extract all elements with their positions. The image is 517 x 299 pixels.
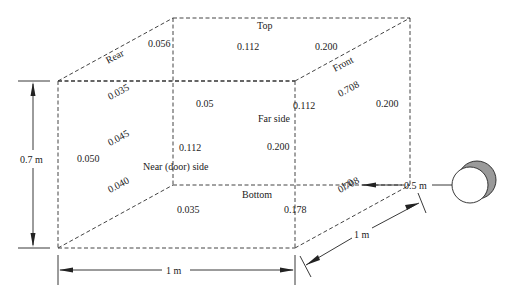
value-far-top: 0.112 — [293, 100, 315, 111]
sphere-source-icon — [452, 161, 496, 203]
value-far-mid: 0.200 — [267, 141, 290, 152]
face-label-top: Top — [257, 20, 272, 31]
value-top-rear: 0.056 — [148, 38, 171, 49]
value-near-inner: 0.112 — [179, 142, 201, 153]
box-diagram: 0.7 m 1 m 1 m 0.5 m Top Rear Front Far s… — [0, 0, 517, 299]
height-dimension: 0.7 m — [18, 81, 50, 248]
face-label-bottom: Bottom — [242, 189, 272, 200]
value-rear-upper: 0.035 — [106, 81, 131, 101]
value-rear-mid: 0.045 — [106, 127, 131, 147]
value-near-left: 0.050 — [77, 153, 100, 164]
value-near-top: 0.05 — [196, 98, 214, 109]
depth-label: 1 m — [354, 229, 370, 240]
value-top-center: 0.112 — [237, 41, 259, 52]
height-label: 0.7 m — [20, 154, 43, 165]
value-front-upper: 0.708 — [336, 78, 361, 98]
width-label: 1 m — [166, 265, 182, 276]
face-label-far-side: Far side — [258, 113, 291, 124]
width-dimension: 1 m — [58, 255, 295, 285]
value-bottom-edge: 0.178 — [284, 204, 307, 215]
value-front-right: 0.200 — [376, 98, 399, 109]
value-rear-lower: 0.040 — [106, 174, 131, 194]
value-top-front: 0.200 — [315, 41, 338, 52]
face-label-front: Front — [331, 54, 355, 74]
value-bottom-center: 0.035 — [177, 204, 200, 215]
value-bottom-front: 0.708 — [336, 174, 361, 194]
face-label-near-side: Near (door) side — [143, 161, 209, 173]
face-label-rear: Rear — [104, 47, 126, 66]
source-distance-label: 0.5 m — [404, 180, 427, 191]
